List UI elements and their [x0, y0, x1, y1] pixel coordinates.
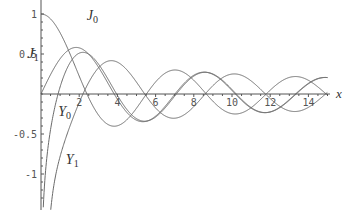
x-tick-label: 8 — [191, 97, 197, 108]
x-tick-label: 10 — [226, 97, 238, 108]
x-tick-label: 2 — [76, 97, 82, 108]
x-tick-label: 4 — [114, 97, 120, 108]
label-y0: Y0 — [58, 104, 71, 121]
x-tick-label: 6 — [153, 97, 159, 108]
y-tick-label: 1 — [31, 9, 37, 20]
curve-y0 — [43, 52, 327, 207]
y-tick-label: -1 — [25, 169, 37, 180]
x-tick-label: 14 — [302, 97, 314, 108]
curve-y1 — [51, 61, 328, 210]
label-j1: J1 — [28, 46, 39, 63]
labels: J0J1Y0Y1 — [28, 8, 98, 170]
bessel-chart: 2468101214-1-0.50.51x J0J1Y0Y1 — [0, 0, 356, 210]
label-y1: Y1 — [66, 152, 79, 169]
label-j0: J0 — [87, 8, 98, 25]
y-tick-label: -0.5 — [13, 129, 37, 140]
x-tick-label: 12 — [264, 97, 276, 108]
curves — [41, 14, 328, 210]
x-axis-label: x — [335, 86, 342, 101]
